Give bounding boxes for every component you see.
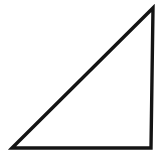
figure-canvas: Right triangle: [0, 0, 164, 158]
triangle-drawing: [0, 0, 164, 158]
